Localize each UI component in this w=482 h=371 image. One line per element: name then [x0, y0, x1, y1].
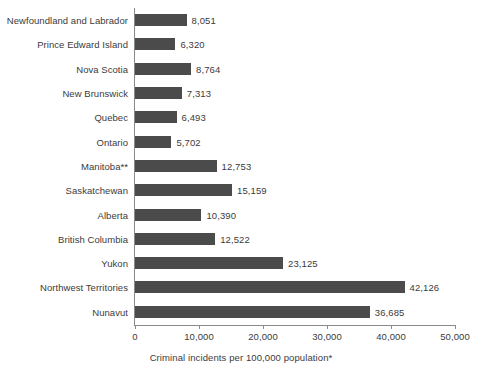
value-label: 12,522 [220, 233, 250, 244]
value-label: 36,685 [375, 306, 405, 317]
bar [135, 87, 182, 99]
x-axis-title: Criminal incidents per 100,000 populatio… [0, 352, 482, 363]
bar-row: Northwest Territories42,126 [0, 275, 482, 299]
category-label: Manitoba** [81, 160, 128, 171]
category-label: Saskatchewan [66, 185, 128, 196]
value-label: 12,753 [222, 160, 252, 171]
value-label: 42,126 [410, 282, 440, 293]
bar-row: New Brunswick7,313 [0, 81, 482, 105]
x-tick-mark [263, 325, 264, 329]
category-label: Nunavut [92, 306, 128, 317]
value-label: 6,320 [180, 39, 204, 50]
x-tick-mark [135, 325, 136, 329]
bar [135, 257, 283, 269]
bar [135, 184, 232, 196]
value-label: 15,159 [237, 185, 267, 196]
bar-row: Alberta10,390 [0, 202, 482, 226]
bar-row: Quebec6,493 [0, 105, 482, 129]
bar-row: Manitoba**12,753 [0, 154, 482, 178]
x-tick-mark [199, 325, 200, 329]
value-label: 8,764 [196, 63, 220, 74]
category-label: New Brunswick [62, 88, 128, 99]
bar-row: Saskatchewan15,159 [0, 178, 482, 202]
bar-row: Ontario5,702 [0, 130, 482, 154]
bar [135, 306, 370, 318]
value-label: 6,493 [182, 112, 206, 123]
bar-row: Newfoundland and Labrador8,051 [0, 8, 482, 32]
category-label: British Columbia [58, 233, 128, 244]
bar-row: British Columbia12,522 [0, 227, 482, 251]
bar [135, 281, 405, 293]
category-label: Alberta [98, 209, 128, 220]
value-label: 23,125 [288, 258, 318, 269]
category-label: Yukon [101, 258, 128, 269]
plot-area: Newfoundland and Labrador8,051Prince Edw… [0, 0, 482, 371]
value-label: 8,051 [192, 15, 216, 26]
x-tick-label: 20,000 [248, 331, 278, 342]
value-label: 5,702 [176, 136, 200, 147]
category-label: Ontario [96, 136, 128, 147]
category-label: Newfoundland and Labrador [7, 15, 128, 26]
bar-chart: Newfoundland and Labrador8,051Prince Edw… [0, 0, 482, 371]
bar [135, 14, 187, 26]
bar [135, 111, 177, 123]
bar [135, 233, 215, 245]
x-tick-label: 0 [132, 331, 137, 342]
value-label: 10,390 [206, 209, 236, 220]
category-label: Nova Scotia [76, 63, 128, 74]
bar-row: Nunavut36,685 [0, 300, 482, 324]
x-tick-mark [455, 325, 456, 329]
bar [135, 209, 201, 221]
x-tick-label: 30,000 [312, 331, 342, 342]
x-tick-label: 50,000 [440, 331, 470, 342]
bar [135, 136, 171, 148]
category-label: Prince Edward Island [37, 39, 128, 50]
bar-row: Nova Scotia8,764 [0, 57, 482, 81]
bar [135, 63, 191, 75]
bar-row: Yukon23,125 [0, 251, 482, 275]
x-tick-mark [391, 325, 392, 329]
value-label: 7,313 [187, 88, 211, 99]
bar [135, 160, 217, 172]
category-label: Quebec [94, 112, 128, 123]
category-label: Northwest Territories [40, 282, 128, 293]
bar [135, 38, 175, 50]
bar-row: Prince Edward Island6,320 [0, 32, 482, 56]
x-tick-mark [327, 325, 328, 329]
x-tick-label: 10,000 [184, 331, 214, 342]
x-axis-line [134, 325, 456, 326]
x-tick-label: 40,000 [376, 331, 406, 342]
